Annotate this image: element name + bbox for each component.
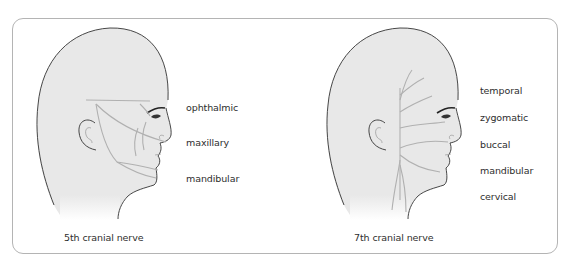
label-ophthalmic: ophthalmic [186,102,238,114]
caption-5th-cranial-nerve: 5th cranial nerve [64,232,143,244]
label-temporal: temporal [480,85,522,97]
cranial-nerve-illustrations [0,0,569,269]
label-buccal: buccal [480,139,510,151]
caption-7th-cranial-nerve: 7th cranial nerve [354,232,433,244]
label-zygomatic: zygomatic [480,112,528,124]
head-7th-nerve [327,28,461,220]
head-5th-nerve [37,28,171,220]
label-cervical: cervical [480,191,516,203]
label-mandibular-5th: mandibular [186,173,239,185]
label-mandibular-7th: mandibular [480,165,533,177]
label-maxillary: maxillary [186,137,229,149]
